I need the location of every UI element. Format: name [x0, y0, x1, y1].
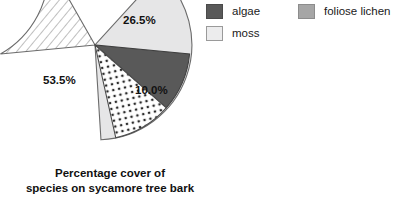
legend-swatch-algae-icon	[206, 4, 223, 19]
chart-caption: Percentage cover of species on sycamore …	[0, 166, 220, 196]
caption-line-1: Percentage cover of	[0, 166, 220, 181]
legend-label-moss: moss	[232, 27, 259, 39]
legend-row-2: moss	[206, 23, 410, 45]
legend-swatch-foliose-lichen-icon	[298, 4, 315, 19]
pie-label-algae: 10.0%	[135, 84, 168, 96]
legend-label-algae: algae	[232, 5, 260, 17]
pie-slice-foliose-lichen	[0, 0, 95, 54]
legend-item-moss: moss	[206, 23, 298, 43]
chart-legend: algae foliose lichen moss	[206, 1, 410, 45]
caption-line-2: species on sycamore tree bark	[0, 181, 220, 196]
pie-label-foliose-lichen: 26.5%	[123, 14, 156, 26]
legend-item-foliose-lichen: foliose lichen	[298, 1, 390, 21]
pie-chart-svg	[0, 0, 200, 165]
legend-swatch-moss-icon	[206, 26, 223, 41]
pie-chart-figure: 26.5% 10.0% 53.5% Percentage cover of sp…	[0, 0, 412, 210]
pie-chart-area: 26.5% 10.0% 53.5%	[0, 0, 200, 165]
legend-item-algae: algae	[206, 1, 298, 21]
pie-label-moss: 53.5%	[43, 74, 76, 86]
legend-row-1: algae foliose lichen	[206, 1, 410, 23]
legend-label-foliose-lichen: foliose lichen	[324, 5, 390, 17]
